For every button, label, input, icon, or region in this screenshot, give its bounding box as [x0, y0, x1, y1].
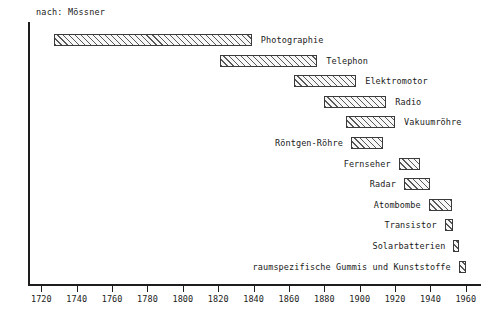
bar-label: Telephon [326, 57, 368, 66]
timeline-bar [429, 199, 452, 211]
timeline-bar [346, 116, 396, 128]
bar-row: Vakuumröhre [0, 116, 492, 128]
timeline-bar [294, 75, 356, 87]
x-axis-tick-label: 1780 [137, 294, 158, 304]
timeline-chart: nach: Mössner 17201740176017801800182018… [0, 0, 492, 319]
bar-label: Photographie [261, 36, 324, 45]
x-axis-tick-label: 1840 [243, 294, 264, 304]
x-axis-tick-label: 1880 [314, 294, 335, 304]
bar-label: Radio [395, 98, 421, 107]
x-axis-tick-label: 1900 [349, 294, 370, 304]
x-axis-tick [112, 286, 113, 292]
bar-label: Solarbatterien [372, 242, 445, 251]
x-axis-tick-label: 1940 [420, 294, 441, 304]
x-axis-tick [466, 286, 467, 292]
bar-label: raumspezifische Gummis und Kunststoffe [253, 263, 451, 272]
x-axis-tick [77, 286, 78, 292]
x-axis-tick-label: 1720 [31, 294, 52, 304]
bar-label: Transistor [384, 221, 436, 230]
timeline-bar [404, 178, 431, 190]
x-axis-tick-label: 1740 [66, 294, 87, 304]
timeline-bar [399, 158, 420, 170]
bar-row: Photographie [0, 34, 492, 46]
x-axis-tick [254, 286, 255, 292]
x-axis-tick [324, 286, 325, 292]
bar-label: Röntgen-Röhre [275, 139, 343, 148]
bar-label: Vakuumröhre [404, 118, 461, 127]
x-axis-tick [360, 286, 361, 292]
timeline-bar [445, 219, 454, 231]
x-axis-tick-label: 1800 [172, 294, 193, 304]
bar-row: Transistor [0, 219, 492, 231]
timeline-bar [324, 96, 386, 108]
timeline-bar [351, 137, 383, 149]
bar-row: Telephon [0, 55, 492, 67]
bar-row: raumspezifische Gummis und Kunststoffe [0, 261, 492, 273]
x-axis-tick-label: 1860 [279, 294, 300, 304]
bar-row: Atombombe [0, 199, 492, 211]
bar-row: Röntgen-Röhre [0, 137, 492, 149]
x-axis-tick [147, 286, 148, 292]
timeline-bar [54, 34, 252, 46]
x-axis-tick-label: 1820 [208, 294, 229, 304]
x-axis-tick [183, 286, 184, 292]
timeline-bar [220, 55, 317, 67]
bar-label: Fernseher [344, 160, 391, 169]
x-axis-tick [289, 286, 290, 292]
bar-label: Radar [370, 180, 396, 189]
bar-row: Radio [0, 96, 492, 108]
bar-row: Radar [0, 178, 492, 190]
x-axis-tick [395, 286, 396, 292]
timeline-bar [459, 261, 466, 273]
x-axis-tick-label: 1760 [102, 294, 123, 304]
x-axis-tick-label: 1960 [455, 294, 476, 304]
source-note: nach: Mössner [36, 7, 105, 17]
x-axis-tick [41, 286, 42, 292]
x-axis-tick [218, 286, 219, 292]
x-axis-tick-label: 1920 [385, 294, 406, 304]
bar-row: Elektromotor [0, 75, 492, 87]
bar-row: Fernseher [0, 158, 492, 170]
bar-label: Elektromotor [365, 77, 428, 86]
bar-label: Atombombe [374, 201, 421, 210]
timeline-bar [453, 240, 459, 252]
bar-row: Solarbatterien [0, 240, 492, 252]
x-axis-tick [430, 286, 431, 292]
